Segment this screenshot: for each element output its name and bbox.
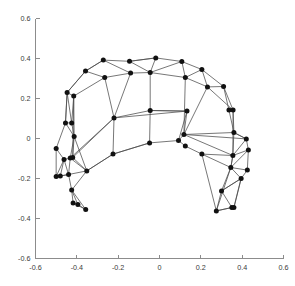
mesh-edge xyxy=(216,168,230,211)
mesh-edge xyxy=(87,154,113,171)
y-tick-label: -0.4 xyxy=(18,214,30,223)
mesh-edge xyxy=(86,71,105,77)
mesh-edge xyxy=(202,154,216,211)
y-axis-ticks: -0.6-0.4-0.200.20.40.6 xyxy=(18,14,39,263)
data-point xyxy=(231,108,236,113)
mesh-edge xyxy=(74,78,105,97)
y-tick-label: 0.2 xyxy=(21,94,31,103)
data-point xyxy=(205,84,210,89)
data-point xyxy=(83,69,88,74)
x-tick-label: -0.2 xyxy=(112,263,124,272)
data-point xyxy=(128,71,133,76)
mesh-edge xyxy=(114,111,150,118)
mesh-edge xyxy=(182,62,202,70)
data-point xyxy=(199,67,204,72)
x-tick-label: -0.4 xyxy=(71,263,83,272)
mesh-edge xyxy=(70,118,114,158)
data-point xyxy=(183,75,188,80)
data-point xyxy=(179,59,184,64)
mesh-nodes xyxy=(54,55,251,213)
data-point xyxy=(199,152,204,157)
data-point xyxy=(71,200,76,205)
data-point xyxy=(66,172,71,177)
data-point xyxy=(228,165,233,170)
data-point xyxy=(183,144,188,149)
mesh-edge xyxy=(207,87,233,110)
y-tick-label: 0 xyxy=(27,134,31,143)
data-point xyxy=(62,157,67,162)
x-tick-label: -0.6 xyxy=(29,263,41,272)
mesh-edge xyxy=(150,111,151,143)
data-point xyxy=(112,115,117,120)
mesh-edge xyxy=(202,70,224,87)
data-point xyxy=(54,146,59,151)
mesh-edge xyxy=(114,73,131,118)
mesh-edges xyxy=(56,58,248,211)
x-tick-label: 0.4 xyxy=(237,263,247,272)
data-point xyxy=(68,156,73,161)
data-point xyxy=(111,152,116,157)
data-point xyxy=(231,130,236,135)
mesh-edge xyxy=(60,160,64,177)
data-point xyxy=(246,147,251,152)
data-point xyxy=(147,140,152,145)
mesh-edge xyxy=(150,62,182,73)
mesh-edge xyxy=(202,154,233,155)
data-point xyxy=(245,168,250,173)
mesh-edge xyxy=(103,60,130,73)
data-point xyxy=(63,120,68,125)
mesh-edge xyxy=(185,78,207,87)
mesh-edge xyxy=(67,71,85,92)
mesh-edge xyxy=(105,78,114,118)
mesh-edge xyxy=(222,191,232,208)
data-point xyxy=(58,174,63,179)
y-tick-label: 0.4 xyxy=(21,54,31,63)
y-tick-label: 0.6 xyxy=(21,14,31,23)
data-point xyxy=(71,94,76,99)
data-point xyxy=(230,153,235,158)
data-point xyxy=(69,188,74,193)
data-point xyxy=(219,188,224,193)
mesh-edge xyxy=(86,60,104,71)
data-point xyxy=(239,176,244,181)
x-tick-label: 0 xyxy=(158,263,162,272)
data-point xyxy=(153,55,158,60)
data-point xyxy=(102,75,107,80)
mesh-edge xyxy=(105,73,131,77)
data-point xyxy=(72,134,77,139)
mesh-edge xyxy=(103,60,129,61)
data-point xyxy=(75,202,80,207)
mesh-edge xyxy=(65,93,67,123)
mesh-edge xyxy=(150,73,185,78)
mesh-edge xyxy=(130,61,151,72)
data-point xyxy=(184,109,189,114)
y-tick-label: -0.2 xyxy=(18,174,30,183)
data-point xyxy=(69,120,74,125)
data-point xyxy=(176,138,181,143)
data-point xyxy=(101,58,106,63)
mesh-edge xyxy=(247,150,248,170)
data-point xyxy=(84,168,89,173)
x-tick-label: 0.2 xyxy=(196,263,206,272)
data-point xyxy=(83,207,88,212)
plot-canvas: -0.6-0.4-0.200.20.40.6-0.6-0.4-0.200.20.… xyxy=(0,0,295,286)
data-point xyxy=(244,136,249,141)
data-point xyxy=(181,132,186,137)
mesh-edge xyxy=(113,118,114,154)
mesh-edge xyxy=(184,133,234,135)
mesh-edge xyxy=(150,111,187,112)
x-tick-label: 0.6 xyxy=(279,263,289,272)
x-axis-ticks: -0.6-0.4-0.200.20.40.6 xyxy=(29,255,288,272)
mesh-edge xyxy=(185,146,202,154)
mesh-edge xyxy=(113,143,150,154)
mesh-edge xyxy=(185,70,202,78)
data-point xyxy=(148,108,153,113)
mesh-edge xyxy=(202,154,231,167)
data-point xyxy=(148,70,153,75)
data-point xyxy=(65,90,70,95)
mesh-edge xyxy=(150,141,179,143)
mesh-edge xyxy=(234,179,241,208)
mesh-edge xyxy=(156,58,182,62)
mesh-edge xyxy=(231,150,249,168)
data-point xyxy=(127,59,132,64)
